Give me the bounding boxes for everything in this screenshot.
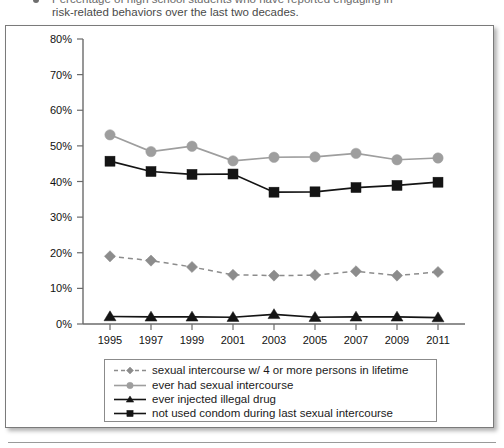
data-point-marker	[269, 152, 279, 162]
data-point-marker	[228, 156, 238, 166]
caption-line-2: risk-related behaviors over the last two…	[52, 6, 299, 19]
figure-caption: Percentage of high school students who h…	[0, 0, 504, 24]
y-tick-label: 70%	[50, 69, 72, 81]
chart-series-2	[104, 309, 444, 322]
data-point-marker	[104, 251, 115, 262]
legend-item-ever-had-sexual-intercourse[interactable]: ever had sexual intercourse	[105, 378, 436, 393]
data-point-marker	[392, 180, 402, 190]
legend-marker-diamond-icon	[114, 363, 146, 378]
x-tick-label: 1997	[139, 334, 163, 346]
legend-label: ever had sexual intercourse	[152, 378, 293, 393]
chart-series-1	[105, 130, 443, 166]
y-tick-label: 0%	[56, 318, 72, 330]
data-point-marker	[433, 153, 443, 163]
data-point-marker	[105, 130, 115, 140]
data-point-marker	[187, 169, 197, 179]
data-point-marker	[351, 148, 361, 158]
y-tick-label: 40%	[50, 176, 72, 188]
data-point-marker	[433, 177, 443, 187]
data-point-marker	[228, 169, 238, 179]
bullet-dot-icon	[33, 0, 39, 3]
legend-label: ever injected illegal drug	[152, 392, 276, 407]
data-point-marker	[269, 187, 279, 197]
y-tick-label: 50%	[50, 140, 72, 152]
data-series-layer	[104, 130, 444, 322]
data-point-marker	[309, 270, 320, 281]
figure-frame: 0%10%20%30%40%50%60%70%80% 1995199719992…	[5, 25, 494, 428]
x-tick-label: 2005	[303, 334, 327, 346]
data-point-marker	[186, 261, 197, 272]
y-tick-label: 10%	[50, 282, 72, 294]
data-point-marker	[351, 183, 361, 193]
legend-marker-circle-icon	[114, 378, 146, 393]
data-point-marker	[227, 269, 238, 280]
data-point-marker	[268, 270, 279, 281]
data-point-marker	[146, 167, 156, 177]
y-tick-label: 20%	[50, 247, 72, 259]
x-tick-label: 2007	[344, 334, 368, 346]
x-tick-label: 2003	[262, 334, 286, 346]
data-point-marker	[310, 152, 320, 162]
data-point-marker	[310, 187, 320, 197]
data-point-marker	[432, 266, 443, 277]
x-tick-label: 2009	[385, 334, 409, 346]
data-point-marker	[187, 141, 197, 151]
chart-series-0	[104, 251, 443, 281]
legend-marker-triangle-icon	[114, 392, 146, 407]
chart-legend: sexual intercourse w/ 4 or more persons …	[104, 359, 437, 422]
data-point-marker	[105, 156, 115, 166]
x-tick-label: 1999	[180, 334, 204, 346]
page-bottom-rule	[8, 442, 496, 443]
data-point-marker	[145, 255, 156, 266]
x-axis-ticks: 199519971999200120032005200720092011	[98, 324, 450, 346]
data-point-marker	[391, 270, 402, 281]
data-point-marker	[146, 146, 156, 156]
data-point-marker	[268, 309, 280, 319]
legend-item-ever-injected-illegal-drug[interactable]: ever injected illegal drug	[105, 392, 436, 407]
y-tick-label: 30%	[50, 211, 72, 223]
y-axis-ticks: 0%10%20%30%40%50%60%70%80%	[50, 33, 83, 330]
x-tick-label: 2001	[221, 334, 245, 346]
data-point-marker	[350, 266, 361, 277]
legend-label: sexual intercourse w/ 4 or more persons …	[152, 363, 408, 378]
legend-label: not used condom during last sexual inter…	[152, 406, 393, 421]
y-tick-label: 60%	[50, 104, 72, 116]
legend-item-sexual-intercourse-4-or-more[interactable]: sexual intercourse w/ 4 or more persons …	[105, 363, 436, 378]
legend-item-not-used-condom[interactable]: not used condom during last sexual inter…	[105, 406, 436, 421]
x-tick-label: 2011	[426, 334, 450, 346]
data-point-marker	[392, 155, 402, 165]
y-tick-label: 80%	[50, 33, 72, 45]
x-tick-label: 1995	[98, 334, 122, 346]
legend-marker-square-icon	[114, 406, 146, 421]
